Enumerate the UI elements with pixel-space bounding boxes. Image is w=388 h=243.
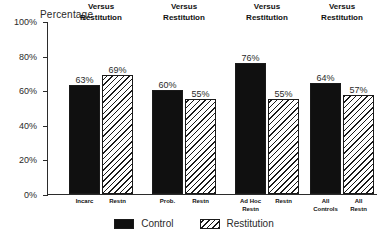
y-axis-tick [43, 57, 48, 58]
x-axis-tick-label: Restn [275, 198, 292, 206]
bar-control[interactable]: 60% [152, 90, 183, 194]
x-axis-tick-label: Restn [192, 198, 209, 206]
x-axis-tick-label: Ad HocRestn [240, 198, 261, 213]
y-axis-tick-label: 0% [24, 190, 37, 200]
bar-value-label: 57% [349, 85, 367, 95]
bar-restitution[interactable]: 69% [102, 75, 133, 194]
legend-swatch-icon [200, 219, 220, 229]
bar-group-title: Ad Hoc Restn.VersusRestitution [240, 0, 295, 23]
bar-restitution[interactable]: 55% [185, 99, 216, 194]
bar-value-label: 69% [108, 65, 126, 75]
y-axis-tick-label: 80% [19, 52, 37, 62]
legend-swatch-icon [114, 219, 134, 229]
bar-value-label: 76% [241, 53, 259, 63]
y-axis-line [47, 22, 48, 195]
bar-restitution[interactable]: 57% [343, 95, 374, 194]
x-axis-tick-label: Prob. [160, 198, 175, 206]
legend-item[interactable]: Restitution [200, 218, 274, 229]
bar-control[interactable]: 63% [69, 85, 100, 194]
y-axis-tick-label: 20% [19, 155, 37, 165]
plot-area: 0%20%40%60%80%100% IncarcerationVersusRe… [47, 22, 377, 195]
y-axis-tick [43, 91, 48, 92]
y-axis-tick-label: 100% [14, 17, 37, 27]
bar-group: All ControlsVersusRestitutionAllControls… [310, 21, 374, 194]
bar-group-title: All ControlsVersusRestitution [319, 0, 364, 23]
y-axis-tick [43, 195, 48, 196]
bar-control[interactable]: 76% [235, 63, 266, 194]
chart-legend: ControlRestitution [0, 218, 388, 229]
x-axis-tick-label: Restn [109, 198, 126, 206]
y-axis-tick-label: 40% [19, 121, 37, 131]
bar-control[interactable]: 64% [310, 83, 341, 194]
x-axis-line [47, 194, 377, 195]
y-axis-tick-label: 60% [19, 86, 37, 96]
x-axis-tick-label: Incarc [76, 198, 94, 206]
bar-group: IncarcerationVersusRestitutionIncarc63%R… [69, 21, 133, 194]
bar-value-label: 55% [191, 89, 209, 99]
x-axis-tick-label: AllRestn [350, 198, 367, 213]
x-axis-tick-label: AllControls [313, 198, 338, 213]
bar-value-label: 60% [158, 80, 176, 90]
bar-group: ProbationVersusRestitutionProb.60%Restn5… [152, 21, 216, 194]
bar-chart: Percentage 0%20%40%60%80%100% Incarcerat… [0, 0, 388, 243]
bar-restitution[interactable]: 55% [268, 99, 299, 194]
bar-group: Ad Hoc Restn.VersusRestitutionAd HocRest… [235, 21, 299, 194]
legend-item[interactable]: Control [114, 218, 173, 229]
y-axis-tick [43, 160, 48, 161]
bar-value-label: 55% [274, 89, 292, 99]
legend-label: Control [141, 218, 173, 229]
bar-value-label: 63% [75, 75, 93, 85]
legend-label: Restitution [227, 218, 274, 229]
y-axis-tick [43, 126, 48, 127]
bar-group-title: IncarcerationVersusRestitution [76, 0, 126, 23]
bar-group-title: ProbationVersusRestitution [163, 0, 205, 23]
y-axis-tick [43, 22, 48, 23]
bar-value-label: 64% [316, 73, 334, 83]
